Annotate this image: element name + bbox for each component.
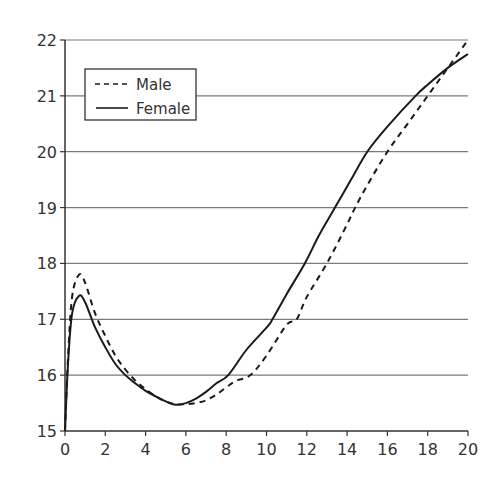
x-tick-label: 0	[60, 440, 70, 459]
y-tick-label: 16	[37, 366, 57, 385]
x-tick-label: 2	[100, 440, 110, 459]
x-tick-label: 8	[221, 440, 231, 459]
y-tick-label: 22	[37, 31, 57, 50]
x-tick-label: 18	[418, 440, 438, 459]
y-tick-label: 18	[37, 254, 57, 273]
x-tick-label: 20	[458, 440, 478, 459]
x-tick-label: 10	[256, 440, 276, 459]
y-tick-label: 15	[37, 422, 57, 441]
y-tick-label: 19	[37, 199, 57, 218]
y-tick-label: 20	[37, 143, 57, 162]
legend-male-label: Male	[136, 76, 172, 94]
x-tick-label: 16	[377, 440, 397, 459]
x-tick-label: 12	[297, 440, 317, 459]
y-tick-label: 17	[37, 310, 57, 329]
legend: Male Female	[85, 69, 196, 120]
line-chart: 151617181920212202468101214161820 Male F…	[0, 0, 499, 482]
y-tick-label: 21	[37, 87, 57, 106]
x-tick-label: 6	[181, 440, 191, 459]
x-tick-label: 14	[337, 440, 357, 459]
x-tick-label: 4	[141, 440, 151, 459]
legend-female-label: Female	[136, 100, 190, 118]
